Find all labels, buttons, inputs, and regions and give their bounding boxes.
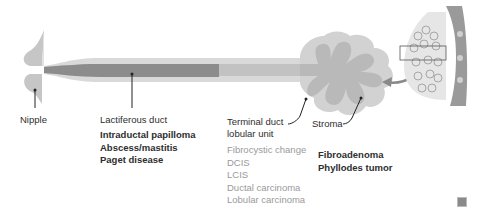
condition-item: Ductal carcinoma <box>227 182 306 195</box>
condition-item: DCIS <box>227 157 306 170</box>
label-nipple: Nipple <box>20 114 47 126</box>
lactiferous-duct-conditions: Intraductal papilloma Abscess/mastitis P… <box>100 129 196 167</box>
label-terminal-duct-line1: Terminal duct <box>227 116 284 128</box>
condition-item: Fibroadenoma <box>318 149 392 162</box>
condition-item: Lobular carcinoma <box>227 194 306 207</box>
stroma-conditions: Fibroadenoma Phyllodes tumor <box>318 149 392 174</box>
label-stroma: Stroma <box>312 118 343 130</box>
tdlu-conditions: Fibrocystic change DCIS LCIS Ductal carc… <box>227 144 306 207</box>
condition-item: Fibrocystic change <box>227 144 306 157</box>
fa-logo-icon <box>457 197 467 207</box>
nipple-illustration <box>24 30 44 104</box>
condition-item: Intraductal papilloma <box>100 129 196 142</box>
condition-item: Paget disease <box>100 154 196 167</box>
condition-item: Phyllodes tumor <box>318 162 392 175</box>
label-lactiferous-duct: Lactiferous duct <box>100 114 167 126</box>
condition-item: LCIS <box>227 169 306 182</box>
label-terminal-duct-line2: lobular unit <box>227 128 273 140</box>
condition-item: Abscess/mastitis <box>100 142 196 155</box>
tdlu-illustration <box>300 32 393 115</box>
breast-illustration <box>400 6 467 106</box>
